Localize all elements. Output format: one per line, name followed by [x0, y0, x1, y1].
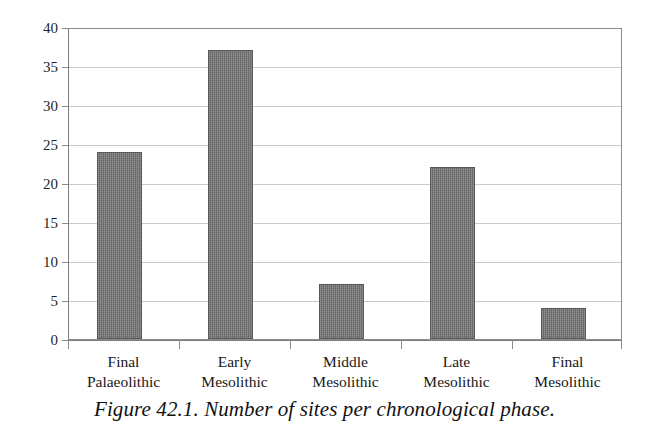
- figure-bar-chart: 40 35 30 25 20 15 10 5 0 Final Palaeol: [0, 0, 649, 431]
- x-axis-category-label: Early Mesolithic: [179, 352, 290, 392]
- category-label-line2: Palaeolithic: [68, 372, 179, 392]
- gridline: [69, 262, 621, 263]
- y-axis-tick-label: 30: [10, 99, 58, 114]
- x-axis-tick-mark: [401, 340, 402, 349]
- category-label-line1: Late: [401, 352, 512, 372]
- x-axis-tick-mark: [68, 340, 69, 349]
- y-axis-tick-label: 35: [10, 60, 58, 75]
- x-axis-category-label: Late Mesolithic: [401, 352, 512, 392]
- gridline: [69, 106, 621, 107]
- category-label-line1: Early: [179, 352, 290, 372]
- x-axis-tick-mark: [290, 340, 291, 349]
- bar-final-palaeolithic: [97, 152, 142, 339]
- x-axis-category-label: Final Mesolithic: [512, 352, 623, 392]
- y-axis-tick-label: 25: [10, 138, 58, 153]
- gridline: [69, 145, 621, 146]
- y-axis-tick-label: 0: [10, 333, 58, 348]
- category-label-line2: Mesolithic: [179, 372, 290, 392]
- category-label-line1: Final: [68, 352, 179, 372]
- y-axis-tick-label: 20: [10, 177, 58, 192]
- bar-final-mesolithic: [541, 308, 586, 339]
- x-axis-tick-mark: [179, 340, 180, 349]
- y-axis-tick-label: 5: [10, 294, 58, 309]
- gridline: [69, 184, 621, 185]
- figure-caption: Figure 42.1. Number of sites per chronol…: [0, 396, 649, 422]
- x-axis-category-label: Final Palaeolithic: [68, 352, 179, 392]
- x-axis-tick-mark: [621, 340, 622, 349]
- category-label-line2: Mesolithic: [401, 372, 512, 392]
- gridline: [69, 67, 621, 68]
- bar-late-mesolithic: [430, 167, 475, 339]
- x-axis-line: [68, 340, 622, 341]
- y-axis-tick-label: 15: [10, 216, 58, 231]
- bar-early-mesolithic: [208, 50, 253, 339]
- y-axis-line: [68, 28, 69, 341]
- y-axis-tick-label: 40: [10, 21, 58, 36]
- y-axis-tick-label: 10: [10, 255, 58, 270]
- category-label-line1: Final: [512, 352, 623, 372]
- gridline: [69, 223, 621, 224]
- bar-middle-mesolithic: [319, 284, 364, 339]
- x-axis-tick-mark: [512, 340, 513, 349]
- category-label-line2: Mesolithic: [512, 372, 623, 392]
- x-axis-category-label: Middle Mesolithic: [290, 352, 401, 392]
- category-label-line1: Middle: [290, 352, 401, 372]
- plot-area: [68, 28, 622, 340]
- category-label-line2: Mesolithic: [290, 372, 401, 392]
